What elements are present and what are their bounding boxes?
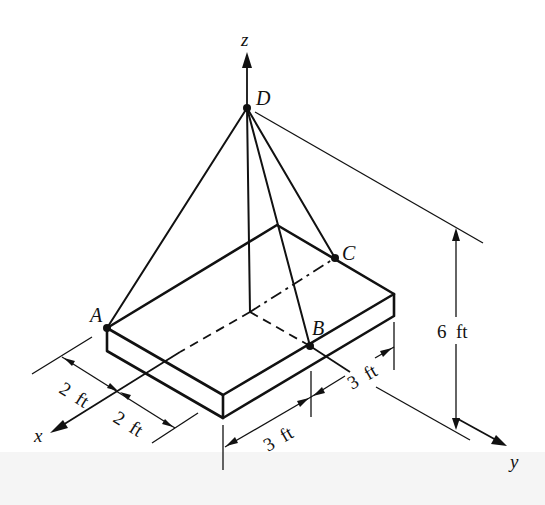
background-lower-band [0, 452, 545, 505]
dim-z-arrow-bottom-icon [452, 418, 460, 430]
dim-y1-label: 3 ft [260, 422, 298, 456]
dim-z-arrow-top-icon [452, 228, 460, 241]
point-d [243, 104, 251, 112]
dim-x2-label: 2 ft [110, 407, 148, 441]
point-c-label: C [342, 242, 356, 264]
point-a [103, 324, 111, 332]
dimension-z-6ft: 6 ft [255, 112, 483, 440]
x-axis-label: x [33, 425, 43, 446]
dim-x1-label: 2 ft [56, 378, 94, 412]
dim-x1-arrow-end-icon [107, 383, 118, 391]
y-axis-label: y [508, 451, 519, 472]
point-c [331, 254, 339, 262]
z-axis: z [240, 29, 252, 108]
extension-line-from-d [255, 112, 483, 243]
z-axis-arrow-icon [242, 52, 252, 68]
plate-cable-diagram: z x y D A B C [0, 0, 545, 505]
cables [107, 108, 335, 346]
y-axis-outer-segment [458, 419, 498, 441]
z-axis-segment-d-to-origin [247, 108, 250, 312]
dim-y2-label: 3 ft [344, 360, 382, 394]
centerline-origin-to-c [250, 258, 335, 312]
point-b [306, 342, 314, 350]
cable-ad [107, 108, 247, 328]
dim-y1-arrow-start-icon [226, 437, 238, 446]
x-axis-hidden-segment [180, 312, 250, 352]
dim-y1-arrow-end-icon [297, 398, 309, 407]
plate-left-side [107, 328, 223, 418]
point-a-label: A [88, 304, 103, 326]
dim-x-extension-a [32, 337, 92, 374]
y-axis-visible-segment [310, 346, 350, 372]
y-axis-hidden-segment [250, 312, 310, 346]
point-d-label: D [255, 87, 271, 109]
dimension-z-label: 6 ft [437, 321, 468, 342]
dim-y2-arrow-end-icon [380, 348, 392, 357]
x-axis-arrow-icon [50, 420, 68, 433]
dim-y2-arrow-start-icon [313, 387, 325, 396]
point-b-label: B [312, 317, 324, 339]
cable-bd [247, 108, 310, 346]
y-axis-arrow-icon [491, 435, 507, 446]
z-axis-label: z [240, 29, 249, 50]
